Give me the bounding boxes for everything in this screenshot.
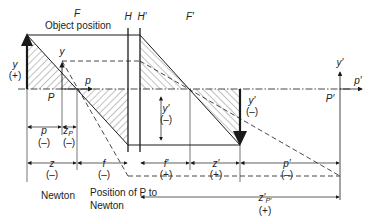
label-dim-f-sign: (–) (98, 169, 110, 180)
caption-position-line2: Newton (90, 200, 124, 211)
label-F-prime: F′ (186, 11, 195, 22)
caption-newton: Newton (41, 190, 75, 201)
label-dim-p: p (40, 125, 47, 136)
caption-position-line1: Position of P to (90, 187, 158, 198)
label-dim-z: z (49, 158, 55, 169)
label-dim-f: f (103, 158, 107, 169)
label-dim-p-sign: (–) (38, 137, 50, 148)
label-dim-z-prime: z′ (212, 158, 221, 169)
label-mid-y-prime: y′ (162, 103, 171, 114)
label-pupil-p-prime: p′ (353, 75, 363, 86)
label-F: F (74, 8, 81, 19)
label-pupil-y-prime: y′ (336, 57, 345, 68)
label-H-prime: H′ (137, 11, 147, 22)
label-dim-z-sign: (–) (46, 169, 58, 180)
label-object-sign: (+) (9, 70, 22, 81)
optics-diagram: F Object position H H′ F′ y (+) y p P y′… (0, 0, 375, 224)
label-pupil-p: p (84, 75, 91, 86)
label-image-y-prime: y′ (248, 95, 257, 106)
label-dim-p-prime: p′ (282, 158, 292, 169)
label-dim-f-prime-sign: (+) (160, 169, 173, 180)
label-dim-zP-prime: z′P′ (258, 192, 273, 204)
label-pupil-y: y (59, 46, 66, 57)
label-P: P (48, 92, 55, 103)
label-P-prime: P′ (326, 93, 336, 104)
label-object-y: y (12, 59, 19, 70)
label-dim-zP-prime-sign: (+) (259, 205, 272, 216)
label-mid-y-prime-sign: (–) (160, 114, 172, 125)
label-dim-p-prime-sign: (–) (281, 169, 293, 180)
label-dim-z-prime-sign: (+) (210, 169, 223, 180)
label-dim-zP-sign: (–) (63, 137, 75, 148)
label-object-position: Object position (45, 20, 111, 31)
label-dim-f-prime: f′ (164, 158, 170, 169)
label-H: H (124, 11, 132, 22)
label-image-sign: (–) (246, 106, 258, 117)
